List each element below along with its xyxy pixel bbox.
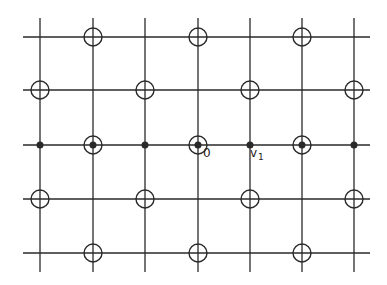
filled-dot-marker [142, 142, 149, 149]
vector-v-label: v [250, 146, 257, 160]
filled-dot-marker [351, 142, 358, 149]
filled-dot-marker [195, 142, 202, 149]
filled-dot-marker [37, 142, 44, 149]
filled-dot-marker [299, 142, 306, 149]
vector-subscript-label: 1 [258, 152, 264, 162]
lattice-diagram [0, 0, 387, 285]
filled-dot-marker [90, 142, 97, 149]
origin-label: 0 [203, 146, 211, 160]
